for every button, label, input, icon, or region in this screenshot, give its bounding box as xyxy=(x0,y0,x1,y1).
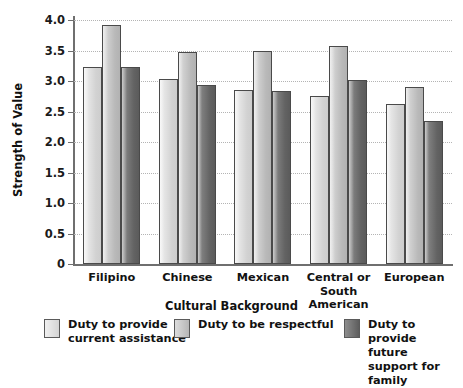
y-axis-tick-label: 1.5 xyxy=(45,166,65,180)
legend-item[interactable]: Duty to provide current assistance xyxy=(44,318,186,346)
bar-highlight xyxy=(273,92,277,263)
category-label-line: Chinese xyxy=(162,271,212,284)
bar-group xyxy=(376,20,452,264)
bar-highlight xyxy=(84,68,88,263)
bar-group xyxy=(74,20,150,264)
bar xyxy=(253,51,272,265)
legend-swatch xyxy=(344,319,360,338)
y-axis-title: Strength of Value xyxy=(10,50,26,230)
plot-area: 00.51.01.52.02.53.03.54.0 xyxy=(74,20,452,264)
x-axis-title: Cultural Background xyxy=(0,299,463,313)
bar xyxy=(197,85,216,264)
legend-label: Duty to be respectful xyxy=(198,318,334,332)
bar-highlight xyxy=(254,52,258,264)
x-axis-category-label: European xyxy=(364,271,463,285)
y-axis-tick-label: 3.0 xyxy=(45,74,65,88)
bar xyxy=(329,46,348,264)
bar-highlight xyxy=(198,86,202,263)
y-axis-tick-label: 1.0 xyxy=(45,196,65,210)
bar xyxy=(272,91,291,264)
chart-legend: Duty to provide current assistanceDuty t… xyxy=(44,318,459,352)
category-label-line: Filipino xyxy=(88,271,135,284)
x-axis-line xyxy=(73,264,453,266)
legend-label: Duty to provide current assistance xyxy=(68,318,186,346)
y-axis-tick-label: 0.5 xyxy=(45,227,65,241)
bar xyxy=(424,121,443,264)
bar-highlight xyxy=(349,81,353,263)
legend-item[interactable]: Duty to provide future support for famil… xyxy=(344,318,459,388)
bar-highlight xyxy=(103,26,107,263)
bar-group xyxy=(150,20,226,264)
bar xyxy=(102,25,121,264)
bar xyxy=(405,87,424,264)
bar xyxy=(121,67,140,264)
y-axis-title-text: Strength of Value xyxy=(11,83,25,197)
bar xyxy=(310,96,329,264)
bar-highlight xyxy=(122,68,126,263)
category-label-line: European xyxy=(384,271,445,284)
y-axis-tick-label: 2.0 xyxy=(45,135,65,149)
bar xyxy=(178,52,197,264)
bar xyxy=(159,79,178,264)
legend-label: Duty to provide future support for famil… xyxy=(368,318,459,388)
bar-highlight xyxy=(425,122,429,263)
bar-group xyxy=(301,20,377,264)
bar-highlight xyxy=(330,47,334,263)
y-axis-tick-label: 4.0 xyxy=(45,13,65,27)
bar-highlight xyxy=(160,80,164,263)
bar xyxy=(348,80,367,264)
legend-item[interactable]: Duty to be respectful xyxy=(174,318,334,338)
legend-swatch xyxy=(44,319,60,338)
bar-highlight xyxy=(311,97,315,263)
bar-highlight xyxy=(406,88,410,263)
bar-highlight xyxy=(387,105,391,263)
category-label-line: American xyxy=(309,298,369,311)
bar-highlight xyxy=(179,53,183,263)
y-axis-tick-label: 3.5 xyxy=(45,44,65,58)
bar-highlight xyxy=(235,91,239,263)
category-label-line: Mexican xyxy=(237,271,289,284)
y-axis-tick xyxy=(68,264,74,265)
bar xyxy=(386,104,405,264)
bar xyxy=(234,90,253,264)
bar xyxy=(83,67,102,264)
y-axis-tick-label: 2.5 xyxy=(45,105,65,119)
category-label-line: Central or South xyxy=(307,271,371,298)
y-axis-tick-label: 0 xyxy=(57,257,65,271)
legend-swatch xyxy=(174,319,190,338)
bar-group xyxy=(225,20,301,264)
